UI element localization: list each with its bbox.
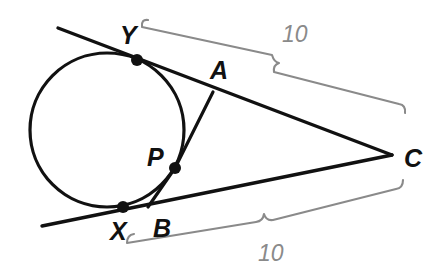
point-label-b: B: [153, 214, 171, 242]
point-dot-y: [131, 54, 143, 66]
point-label-p: P: [147, 143, 164, 171]
lower-measure-label: 10: [258, 240, 284, 266]
point-dot-p: [169, 162, 181, 174]
upper-tangent-line: [58, 28, 392, 155]
point-dot-x: [117, 201, 129, 213]
point-label-y: Y: [120, 21, 139, 49]
point-label-x: X: [108, 217, 128, 245]
lower-tangent-line: [42, 155, 392, 226]
inscribed-circle: [30, 53, 184, 207]
figure-canvas: Y A P X B C 10 10: [0, 0, 437, 269]
point-label-c: C: [404, 144, 423, 172]
upper-measure-label: 10: [282, 21, 308, 47]
geometry-figure: Y A P X B C 10 10: [0, 0, 437, 269]
point-label-a: A: [209, 56, 228, 84]
upper-measure-brace: [142, 20, 405, 113]
